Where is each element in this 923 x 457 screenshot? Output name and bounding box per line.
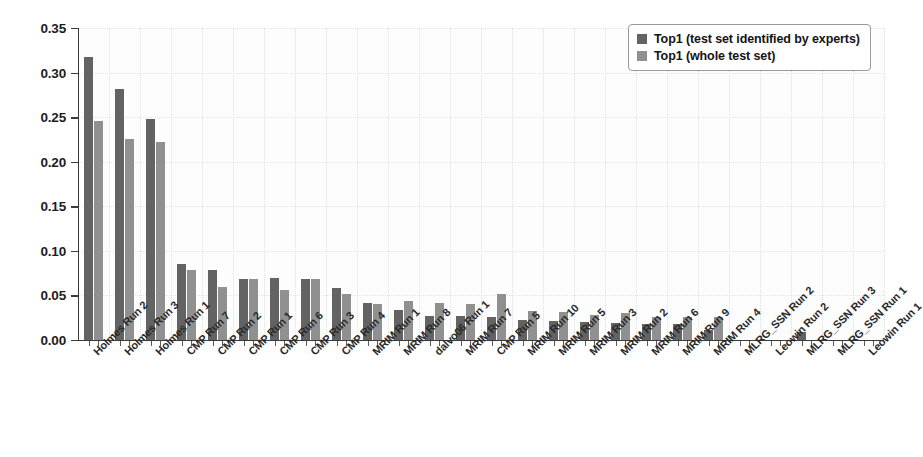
y-axis-tick: [71, 73, 78, 74]
bar-group: [450, 28, 481, 340]
plot-area: [78, 28, 884, 340]
x-axis-tick: [492, 341, 493, 346]
bar-group: [388, 28, 419, 340]
x-axis-tick: [368, 341, 369, 346]
bar: [115, 89, 124, 340]
legend-label-1: Top1 (whole test set): [654, 49, 775, 63]
chart-legend: Top1 (test set identified by experts) To…: [628, 24, 871, 71]
bar-group: [202, 28, 233, 340]
bar-group: [512, 28, 543, 340]
x-axis-tick: [709, 341, 710, 346]
x-axis-tick: [771, 341, 772, 346]
x-axis-tick: [151, 341, 152, 346]
y-axis-tick: [71, 162, 78, 163]
bar-group: [543, 28, 574, 340]
bar-group: [326, 28, 357, 340]
x-axis-tick: [647, 341, 648, 346]
y-axis-label: 0.35: [0, 21, 66, 36]
y-axis-label: 0.30: [0, 65, 66, 80]
y-axis-label: 0.20: [0, 154, 66, 169]
light-gray-swatch-icon: [637, 51, 647, 61]
y-axis-tick: [71, 251, 78, 252]
x-axis-tick: [678, 341, 679, 346]
bar-group: [264, 28, 295, 340]
y-axis-label: 0.15: [0, 199, 66, 214]
y-axis-label: 0.05: [0, 288, 66, 303]
x-axis-tick: [833, 341, 834, 346]
bar-group: [729, 28, 760, 340]
x-axis-tick: [430, 341, 431, 346]
legend-label-0: Top1 (test set identified by experts): [654, 32, 860, 46]
y-axis-label: 0.25: [0, 110, 66, 125]
bar-group: [760, 28, 791, 340]
x-axis-tick: [740, 341, 741, 346]
x-axis-tick: [120, 341, 121, 346]
bar-group: [481, 28, 512, 340]
y-axis-tick: [71, 340, 78, 341]
y-axis-label: 0.10: [0, 243, 66, 258]
x-axis-tick: [523, 341, 524, 346]
bar-group: [419, 28, 450, 340]
y-axis-tick: [71, 117, 78, 118]
bar-group: [698, 28, 729, 340]
y-axis-label: 0.00: [0, 333, 66, 348]
gridline-v: [884, 28, 886, 340]
y-axis-line: [78, 28, 79, 341]
bar-group: [605, 28, 636, 340]
x-axis-tick: [275, 341, 276, 346]
x-axis-tick: [802, 341, 803, 346]
x-axis-tick: [616, 341, 617, 346]
legend-item-0: Top1 (test set identified by experts): [637, 30, 860, 47]
x-axis-tick: [182, 341, 183, 346]
bar-group: [171, 28, 202, 340]
bar-group: [357, 28, 388, 340]
x-axis-tick: [244, 341, 245, 346]
bar-group: [78, 28, 109, 340]
dark-gray-swatch-icon: [637, 34, 647, 44]
bar-group: [140, 28, 171, 340]
bar-group: [295, 28, 326, 340]
x-axis-tick: [337, 341, 338, 346]
legend-item-1: Top1 (whole test set): [637, 47, 860, 64]
x-axis-tick: [864, 341, 865, 346]
x-axis-tick: [461, 341, 462, 346]
x-axis-tick: [585, 341, 586, 346]
bar-group: [233, 28, 264, 340]
y-axis-tick: [71, 295, 78, 296]
bar-group: [109, 28, 140, 340]
x-axis-tick: [213, 341, 214, 346]
bar-group: [636, 28, 667, 340]
x-axis-tick: [554, 341, 555, 346]
bar: [94, 121, 103, 340]
x-axis-tick: [89, 341, 90, 346]
y-axis-tick: [71, 28, 78, 29]
y-axis-tick: [71, 206, 78, 207]
bar-group: [574, 28, 605, 340]
bar-group: [667, 28, 698, 340]
bar: [84, 57, 93, 340]
x-axis-tick: [399, 341, 400, 346]
x-axis-tick: [306, 341, 307, 346]
bar-group: [822, 28, 853, 340]
